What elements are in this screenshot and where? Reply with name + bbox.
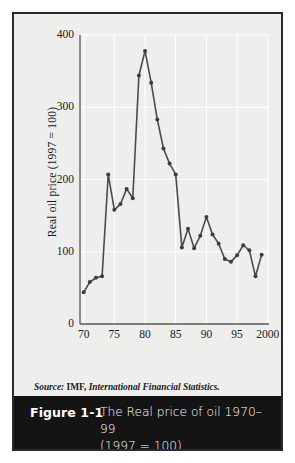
data-point xyxy=(94,276,98,280)
figure-number-label: Figure 1-1 xyxy=(30,405,103,420)
data-point-markers xyxy=(82,49,264,294)
y-tick-label: 300 xyxy=(40,100,74,112)
y-tick-label: 100 xyxy=(40,245,74,257)
figure-caption-bar: Figure 1-1 The Real price of oil 1970–99… xyxy=(14,396,281,449)
data-point xyxy=(106,172,110,176)
data-point xyxy=(192,246,196,250)
data-point xyxy=(125,187,129,191)
data-point xyxy=(204,215,208,219)
y-tick-label: 400 xyxy=(40,28,74,40)
horizontal-gridlines xyxy=(80,35,269,252)
source-organization: IMF, xyxy=(67,382,87,392)
figure-container: Real oil price (1997 = 100) 010020030040… xyxy=(12,12,283,451)
x-tick-label: 2000 xyxy=(248,328,283,340)
data-series-line xyxy=(84,51,262,292)
data-point xyxy=(235,253,239,257)
data-point xyxy=(137,73,141,77)
data-point xyxy=(241,243,245,247)
data-point xyxy=(223,257,227,261)
data-point xyxy=(119,202,123,206)
chart-plot-area: Real oil price (1997 = 100) 010020030040… xyxy=(14,14,281,374)
source-publication: International Financial Statistics. xyxy=(89,382,220,392)
data-point xyxy=(229,260,233,264)
data-point xyxy=(161,146,165,150)
data-point xyxy=(186,227,190,231)
data-point xyxy=(88,280,92,284)
data-point xyxy=(247,248,251,252)
data-point xyxy=(254,274,258,278)
data-point xyxy=(198,234,202,238)
data-point xyxy=(168,162,172,166)
data-point xyxy=(149,81,153,85)
data-point xyxy=(217,242,221,246)
source-note: Source: IMF, International Financial Sta… xyxy=(34,382,220,392)
data-point xyxy=(260,253,264,257)
y-tick-label: 200 xyxy=(40,173,74,185)
data-point xyxy=(155,118,159,122)
data-point xyxy=(143,49,147,53)
data-point xyxy=(174,172,178,176)
data-point xyxy=(211,232,215,236)
data-point xyxy=(180,245,184,249)
data-point xyxy=(131,196,135,200)
data-point xyxy=(100,274,104,278)
figure-caption-text: The Real price of oil 1970–99 (1997 = 10… xyxy=(100,404,275,451)
data-point xyxy=(82,290,86,294)
source-prefix: Source: xyxy=(34,382,64,392)
caption-line-2: (1997 = 100) xyxy=(100,438,275,451)
caption-line-1: The Real price of oil 1970–99 xyxy=(100,405,262,436)
data-point xyxy=(112,208,116,212)
